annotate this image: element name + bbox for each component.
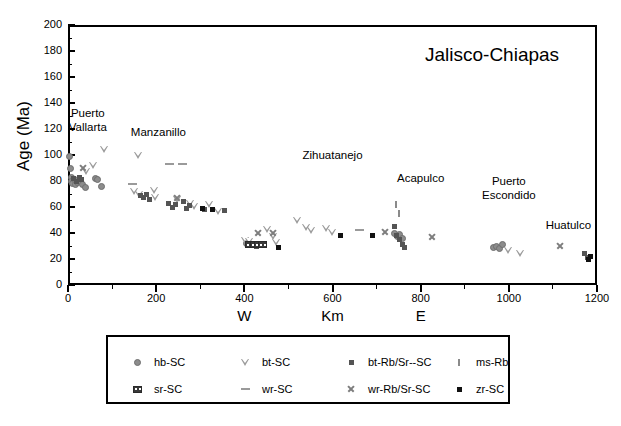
legend-item[interactable]: wr-SC xyxy=(238,382,293,396)
y-minor-tick xyxy=(68,194,72,195)
y-minor-tick xyxy=(68,64,72,65)
region-label: Acapulco xyxy=(376,171,466,185)
x-direction-label: Km xyxy=(313,308,353,323)
y-tick-label: 60 xyxy=(30,201,62,212)
legend-marker-icon xyxy=(130,383,144,395)
region-label: Huatulco xyxy=(523,218,613,232)
y-minor-tick xyxy=(68,90,72,91)
x-tick-label: 0 xyxy=(48,293,88,304)
y-minor-tick xyxy=(68,168,72,169)
x-tick-mark xyxy=(332,285,334,292)
y-tick-mark xyxy=(68,154,75,156)
legend-item[interactable]: wr-Rb/Sr-SC xyxy=(344,382,430,396)
y-tick-mark xyxy=(68,258,75,260)
y-tick-label: 20 xyxy=(30,253,62,264)
x-tick-mark xyxy=(67,285,69,292)
legend-marker-icon xyxy=(238,383,252,395)
y-minor-tick xyxy=(68,272,72,273)
y-minor-tick xyxy=(68,38,72,39)
y-tick-label: 160 xyxy=(30,71,62,82)
legend-marker-icon xyxy=(238,356,252,368)
region-label: Zihuatanejo xyxy=(288,148,378,162)
legend-item[interactable]: hb-SC xyxy=(130,355,185,369)
legend: hb-SCbt-SCbt-Rb/Sr--SCms-Rb/Sr-SCsr-SCwr… xyxy=(106,335,510,404)
x-tick-mark xyxy=(420,285,422,292)
x-direction-label: E xyxy=(401,308,441,323)
x-tick-mark xyxy=(508,285,510,292)
x-tick-label: 200 xyxy=(136,293,176,304)
legend-label: zr-SC xyxy=(476,384,504,395)
y-tick-mark xyxy=(68,76,75,78)
x-direction-label: W xyxy=(224,308,264,323)
legend-marker-icon xyxy=(452,383,466,395)
legend-marker-icon xyxy=(452,356,466,368)
x-minor-tick xyxy=(464,285,465,289)
y-minor-tick xyxy=(68,142,72,143)
legend-label: wr-Rb/Sr-SC xyxy=(368,384,430,395)
legend-item[interactable]: bt-Rb/Sr--SC xyxy=(344,355,432,369)
region-label: Manzanillo xyxy=(113,125,203,139)
region-label: Puerto Escondido xyxy=(464,174,554,202)
legend-label: ms-Rb/Sr-SC xyxy=(476,357,510,368)
x-minor-tick xyxy=(112,285,113,289)
chart-title: Jalisco-Chiapas xyxy=(425,45,559,64)
legend-label: bt-Rb/Sr--SC xyxy=(368,357,432,368)
y-tick-label: 180 xyxy=(30,45,62,56)
y-minor-tick xyxy=(68,246,72,247)
x-tick-mark xyxy=(155,285,157,292)
legend-item[interactable]: sr-SC xyxy=(130,382,182,396)
y-tick-mark xyxy=(68,102,75,104)
legend-marker-icon xyxy=(130,356,144,368)
legend-item[interactable]: bt-SC xyxy=(238,355,290,369)
y-tick-mark xyxy=(68,206,75,208)
legend-item[interactable]: zr-SC xyxy=(452,382,504,396)
legend-marker-icon xyxy=(344,383,358,395)
x-tick-label: 1200 xyxy=(577,293,617,304)
y-tick-mark xyxy=(68,284,75,286)
y-tick-label: 200 xyxy=(30,19,62,30)
x-tick-label: 600 xyxy=(313,293,353,304)
x-tick-mark xyxy=(243,285,245,292)
x-minor-tick xyxy=(552,285,553,289)
x-tick-label: 800 xyxy=(401,293,441,304)
x-tick-label: 400 xyxy=(224,293,264,304)
y-tick-label: 100 xyxy=(30,149,62,160)
x-minor-tick xyxy=(288,285,289,289)
x-minor-tick xyxy=(376,285,377,289)
y-minor-tick xyxy=(68,220,72,221)
legend-label: hb-SC xyxy=(154,357,185,368)
y-tick-label: 40 xyxy=(30,227,62,238)
legend-marker-icon xyxy=(344,356,358,368)
legend-label: sr-SC xyxy=(154,384,182,395)
legend-item[interactable]: ms-Rb/Sr-SC xyxy=(452,355,510,369)
y-tick-mark xyxy=(68,180,75,182)
x-minor-tick xyxy=(200,285,201,289)
legend-label: bt-SC xyxy=(262,357,290,368)
y-tick-mark xyxy=(68,24,75,26)
y-tick-label: 0 xyxy=(30,279,62,290)
x-tick-mark xyxy=(596,285,598,292)
legend-label: wr-SC xyxy=(262,384,293,395)
y-tick-label: 80 xyxy=(30,175,62,186)
y-tick-mark xyxy=(68,232,75,234)
x-tick-label: 1000 xyxy=(489,293,529,304)
y-tick-mark xyxy=(68,50,75,52)
chart-figure: Age (Ma) 020406080100120140160180200 020… xyxy=(0,0,621,426)
